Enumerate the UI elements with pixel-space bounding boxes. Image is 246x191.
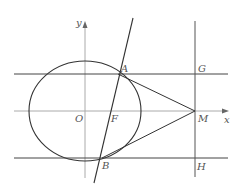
point-label-B: B bbox=[101, 160, 109, 171]
point-label-H: H bbox=[196, 161, 206, 172]
y-axis-label: y bbox=[75, 17, 82, 28]
point-label-M: M bbox=[197, 113, 209, 124]
ellipse-geometry-figure: y x A G O F M B H bbox=[0, 0, 246, 191]
point-label-O: O bbox=[75, 113, 83, 124]
point-label-A: A bbox=[120, 63, 128, 74]
x-axis-label: x bbox=[224, 114, 230, 125]
point-label-F: F bbox=[110, 113, 119, 124]
x-axis-arrow-icon bbox=[222, 109, 229, 114]
y-axis-arrow-icon bbox=[83, 21, 88, 28]
point-label-G: G bbox=[198, 63, 206, 74]
segment-AM bbox=[118, 74, 195, 111]
